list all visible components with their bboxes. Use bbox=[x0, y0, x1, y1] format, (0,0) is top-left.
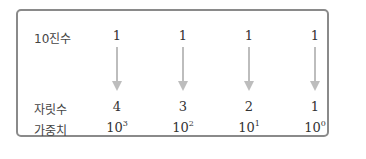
down-arrow-icon bbox=[112, 47, 122, 91]
weight-value: 102 bbox=[163, 120, 203, 135]
decimal-digit: 1 bbox=[163, 28, 203, 43]
decimal-digit: 1 bbox=[229, 28, 269, 43]
weight-exponent: 3 bbox=[123, 119, 128, 128]
weight-value: 103 bbox=[97, 120, 137, 135]
weight-exponent: 0 bbox=[321, 119, 326, 128]
row-label-decimal: 10진수 bbox=[34, 29, 71, 46]
down-arrow-icon bbox=[178, 47, 188, 91]
position-value: 1 bbox=[295, 99, 335, 114]
down-arrow-icon bbox=[310, 47, 320, 91]
position-value: 4 bbox=[97, 99, 137, 114]
row-label-position: 자릿수 bbox=[34, 100, 67, 117]
decimal-digit: 1 bbox=[97, 28, 137, 43]
weight-exponent: 1 bbox=[255, 119, 260, 128]
decimal-digit: 1 bbox=[295, 28, 335, 43]
down-arrow-icon bbox=[244, 47, 254, 91]
row-label-weight: 가중치 bbox=[34, 121, 67, 138]
weight-value: 101 bbox=[229, 120, 269, 135]
weight-value: 100 bbox=[295, 120, 335, 135]
weight-exponent: 2 bbox=[189, 119, 194, 128]
position-value: 2 bbox=[229, 99, 269, 114]
position-value: 3 bbox=[163, 99, 203, 114]
